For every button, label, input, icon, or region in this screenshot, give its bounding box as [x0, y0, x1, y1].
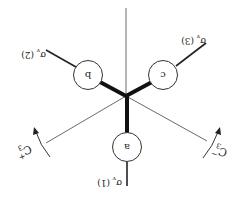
svg-text:(2): (2) — [21, 50, 34, 60]
sigma-1-label: σ v (1) — [97, 176, 122, 188]
svg-text:(3): (3) — [181, 36, 194, 46]
c3-plus-label: C 3 + — [14, 140, 34, 162]
svg-text:(1): (1) — [97, 178, 110, 188]
sigma-2-label: σ v (2) — [21, 48, 46, 60]
bond-b — [100, 82, 126, 96]
c3-minus-arrowhead-icon — [215, 127, 221, 135]
svg-text:v: v — [36, 48, 41, 55]
svg-text:3: 3 — [17, 143, 24, 152]
c3v-diagram: b c a σ v (2) σ v (3) σ v (1) C 3 + C 3 … — [0, 0, 240, 204]
right-axis-line — [126, 96, 207, 141]
atom-b-label: b — [85, 70, 91, 81]
sigma-3-label: σ v (3) — [181, 34, 206, 46]
left-axis-line — [46, 96, 126, 143]
sigma-2-line — [46, 50, 76, 67]
svg-text:v: v — [112, 176, 117, 183]
atom-a-label: a — [124, 142, 130, 153]
bond-c — [126, 82, 152, 96]
svg-text:v: v — [196, 34, 201, 41]
c3-plus-arrow — [36, 132, 50, 157]
c3-plus-arrowhead-icon — [33, 127, 39, 135]
atom-c-label: c — [160, 70, 166, 81]
